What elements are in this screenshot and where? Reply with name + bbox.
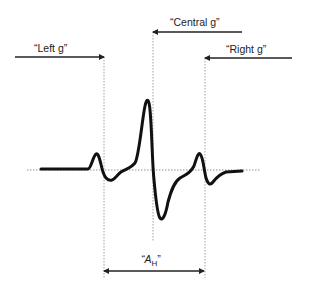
left-g-label: “Left g” bbox=[34, 43, 67, 54]
central-g-label: “Central g” bbox=[170, 17, 220, 28]
a-h-label-close: ” bbox=[157, 253, 161, 265]
right-g-label: “Right g” bbox=[226, 44, 266, 55]
a-h-label: “AH” bbox=[141, 254, 161, 268]
a-h-label-main: “A bbox=[141, 253, 152, 265]
waveform-curve bbox=[41, 100, 242, 219]
